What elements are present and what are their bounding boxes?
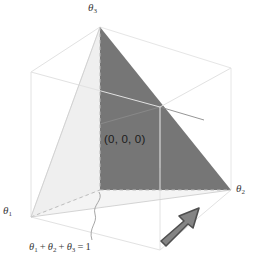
axis-label-theta3: θ3 <box>88 2 97 13</box>
axis-label-theta1: θ1 <box>3 205 12 216</box>
constraint-equals: = <box>75 241 85 252</box>
figure-canvas <box>0 0 254 264</box>
simplex-figure: θ3 θ2 θ1 (0, 0, 0) θ1 + θ2 + θ3 = 1 <box>0 0 254 264</box>
theta3-subscript: 3 <box>93 7 97 15</box>
direction-arrow <box>161 208 199 246</box>
constraint-theta3-sub: 3 <box>72 246 76 254</box>
cube-edge-connect-top-right <box>160 68 231 107</box>
constraint-value: 1 <box>85 241 90 252</box>
axis-label-theta2: θ2 <box>236 183 245 194</box>
constraint-theta1-sub: 1 <box>34 246 38 254</box>
theta2-subscript: 2 <box>241 188 245 196</box>
origin-annotation: (0, 0, 0) <box>104 134 145 146</box>
theta1-subscript: 1 <box>8 210 12 218</box>
constraint-plus-2: + <box>56 241 66 252</box>
constraint-equation: θ1 + θ2 + θ3 = 1 <box>29 242 91 253</box>
constraint-theta2-sub: 2 <box>53 246 57 254</box>
constraint-plus-1: + <box>38 241 48 252</box>
